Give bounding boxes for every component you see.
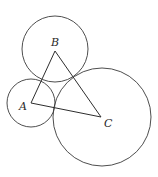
edge-bc xyxy=(55,51,101,117)
circle-b xyxy=(22,16,88,82)
tangent-circles-triangle-diagram: A B C xyxy=(0,0,158,177)
labels-group: A B C xyxy=(18,36,113,130)
edge-ca xyxy=(31,103,101,117)
circle-c xyxy=(53,68,151,166)
circles-group xyxy=(7,16,151,166)
vertex-label-b: B xyxy=(50,36,59,49)
vertex-label-a: A xyxy=(18,100,27,113)
vertex-label-c: C xyxy=(104,117,113,130)
edge-ab xyxy=(31,51,55,103)
